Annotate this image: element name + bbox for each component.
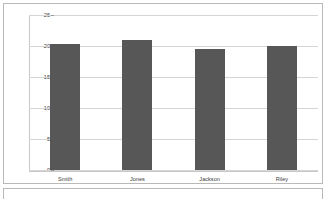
secondary-panel [3,188,323,199]
chart-canvas: 0510152025 SmithJonesJacksonRiley [4,4,322,183]
screenshot-root: 0510152025 SmithJonesJacksonRiley [0,0,327,199]
plot-area: 0510152025 [29,15,318,170]
x-axis-category-label: Smith [58,176,72,183]
x-axis-category-label: Jackson [199,176,220,183]
bar[interactable] [195,49,225,170]
bar[interactable] [50,44,80,170]
bar-chart-panel: 0510152025 SmithJonesJacksonRiley [3,3,323,184]
x-axis-category-label: Jones [130,176,145,183]
bar[interactable] [267,46,297,170]
bars-layer [29,15,318,170]
x-axis-category-labels: SmithJonesJacksonRiley [29,171,318,185]
x-axis-category-label: Riley [276,176,288,183]
bar[interactable] [122,40,152,170]
